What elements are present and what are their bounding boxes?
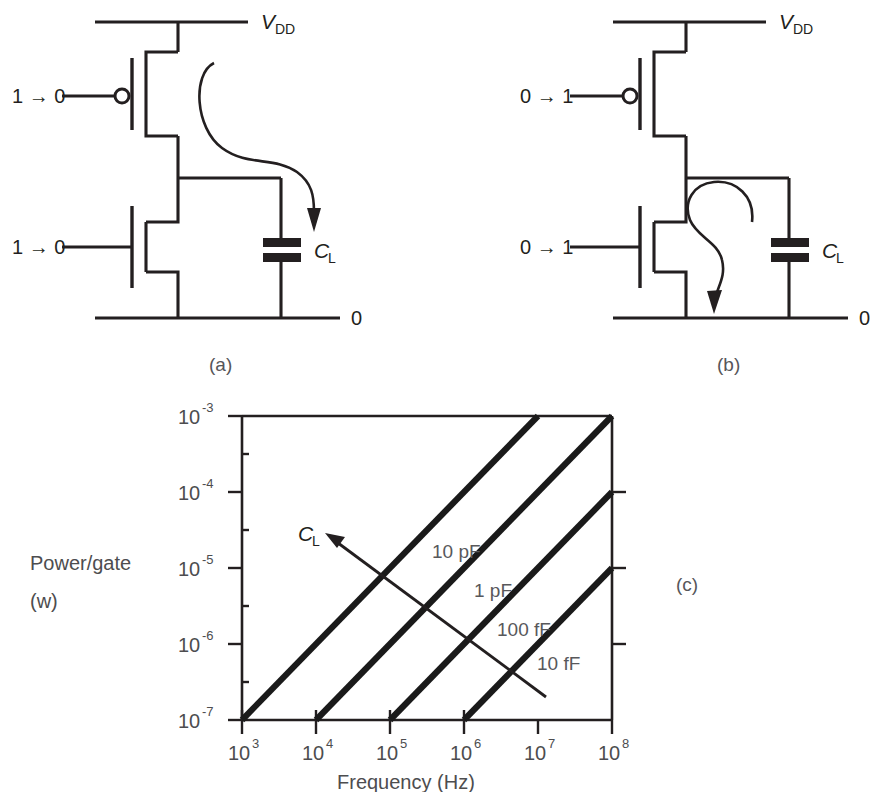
panel-caption-a: (a) [209, 354, 232, 375]
nmos-input-label-b: 0 → 1 [520, 236, 573, 258]
y-tick-label-1: 10 -4 [178, 476, 214, 504]
x-tick-label-4: 10 7 [524, 736, 555, 764]
panel-c-chart: C L 10 pF 1 pF 100 fF 10 fF 10 -3 10 -4 … [30, 400, 698, 792]
y-tick-label-3-exponent: -6 [202, 628, 214, 643]
curve-label-1pf: 1 pF [474, 580, 512, 601]
ground-label-b: 0 [859, 307, 870, 329]
nmos-drain-leg-a [146, 178, 178, 222]
curve-label-10ff: 10 fF [537, 653, 580, 674]
pmos-drain-leg-a [146, 124, 178, 136]
cap-top-plate-b [771, 238, 809, 247]
cap-bottom-plate-a [263, 253, 301, 262]
cap-bottom-plate-b [771, 253, 809, 262]
charging-current-arrowhead-a [307, 208, 321, 232]
discharging-current-arrow-b [688, 182, 753, 296]
y-axis-title-line1: Power/gate [30, 552, 131, 574]
x-tick-label-4-mantissa: 10 [524, 742, 546, 764]
cl-annotation-sub: L [312, 533, 320, 549]
x-tick-label-2: 10 5 [376, 736, 407, 764]
y-tick-label-2-mantissa: 10 [178, 558, 200, 580]
nmos-input-label-a: 1 → 0 [12, 236, 65, 258]
y-tick-label-0: 10 -3 [178, 400, 214, 428]
x-tick-label-0-mantissa: 10 [228, 742, 250, 764]
pmos-inversion-bubble-b [623, 89, 637, 103]
ground-label-a: 0 [351, 307, 362, 329]
charging-current-arrow-a [199, 63, 314, 212]
y-tick-label-3: 10 -6 [178, 628, 214, 656]
y-tick-label-3-mantissa: 10 [178, 634, 200, 656]
y-axis-title-line2: (w) [30, 590, 58, 612]
nmos-source-leg-a [146, 272, 178, 318]
x-tick-label-1: 10 4 [302, 736, 333, 764]
x-tick-label-2-mantissa: 10 [376, 742, 398, 764]
y-tick-label-4-mantissa: 10 [178, 710, 200, 732]
x-tick-label-5-mantissa: 10 [598, 742, 620, 764]
nmos-drain-leg-b [654, 178, 686, 222]
cap-label-sub-a: L [328, 250, 336, 266]
panel-b-circuit: 0 → 1 0 → 1 V DD 0 C L (b) [520, 10, 870, 375]
x-tick-label-3-exponent: 6 [474, 736, 481, 751]
curve-10pf [242, 416, 538, 720]
curve-1pf [316, 416, 612, 720]
curve-label-100ff: 100 fF [497, 619, 551, 640]
x-axis-title: Frequency (Hz) [337, 771, 475, 792]
panel-caption-b: (b) [717, 354, 740, 375]
discharging-current-arrowhead-b [707, 290, 722, 314]
x-tick-label-5: 10 8 [598, 736, 629, 764]
x-tick-label-5-exponent: 8 [622, 736, 629, 751]
x-tick-label-1-mantissa: 10 [302, 742, 324, 764]
panel-caption-c: (c) [676, 574, 698, 595]
x-tick-label-4-exponent: 7 [548, 736, 555, 751]
x-tick-label-0-exponent: 3 [252, 736, 259, 751]
pmos-drain-leg-b [654, 124, 686, 136]
pmos-inversion-bubble-a [115, 89, 129, 103]
y-tick-label-0-mantissa: 10 [178, 406, 200, 428]
x-tick-label-0: 10 3 [228, 736, 259, 764]
x-tick-label-3: 10 6 [450, 736, 481, 764]
cap-label-sub-b: L [836, 250, 844, 266]
x-tick-label-2-exponent: 5 [400, 736, 407, 751]
y-tick-label-0-exponent: -3 [202, 400, 214, 415]
pmos-input-label-a: 1 → 0 [12, 85, 65, 107]
figure-canvas: 1 → 0 1 → 0 V DD 0 C L (a) [0, 0, 895, 792]
y-tick-label-4-exponent: -7 [202, 704, 214, 719]
vdd-label-sub-b: DD [793, 21, 813, 37]
y-tick-label-4: 10 -7 [178, 704, 214, 732]
y-tick-label-2-exponent: -5 [202, 552, 214, 567]
figure-root: 1 → 0 1 → 0 V DD 0 C L (a) [0, 0, 895, 792]
y-tick-label-1-mantissa: 10 [178, 482, 200, 504]
y-tick-label-1-exponent: -4 [202, 476, 214, 491]
x-tick-label-3-mantissa: 10 [450, 742, 472, 764]
panel-a-circuit: 1 → 0 1 → 0 V DD 0 C L (a) [12, 10, 362, 375]
pmos-source-leg-a [146, 52, 178, 78]
x-tick-label-1-exponent: 4 [326, 736, 333, 751]
y-tick-label-2: 10 -5 [178, 552, 214, 580]
vdd-label-sub-a: DD [275, 21, 295, 37]
cap-top-plate-a [263, 238, 301, 247]
pmos-input-label-b: 0 → 1 [520, 85, 573, 107]
curve-label-10pf: 10 pF [432, 541, 481, 562]
pmos-source-leg-b [654, 52, 686, 78]
nmos-source-leg-b [654, 272, 686, 318]
